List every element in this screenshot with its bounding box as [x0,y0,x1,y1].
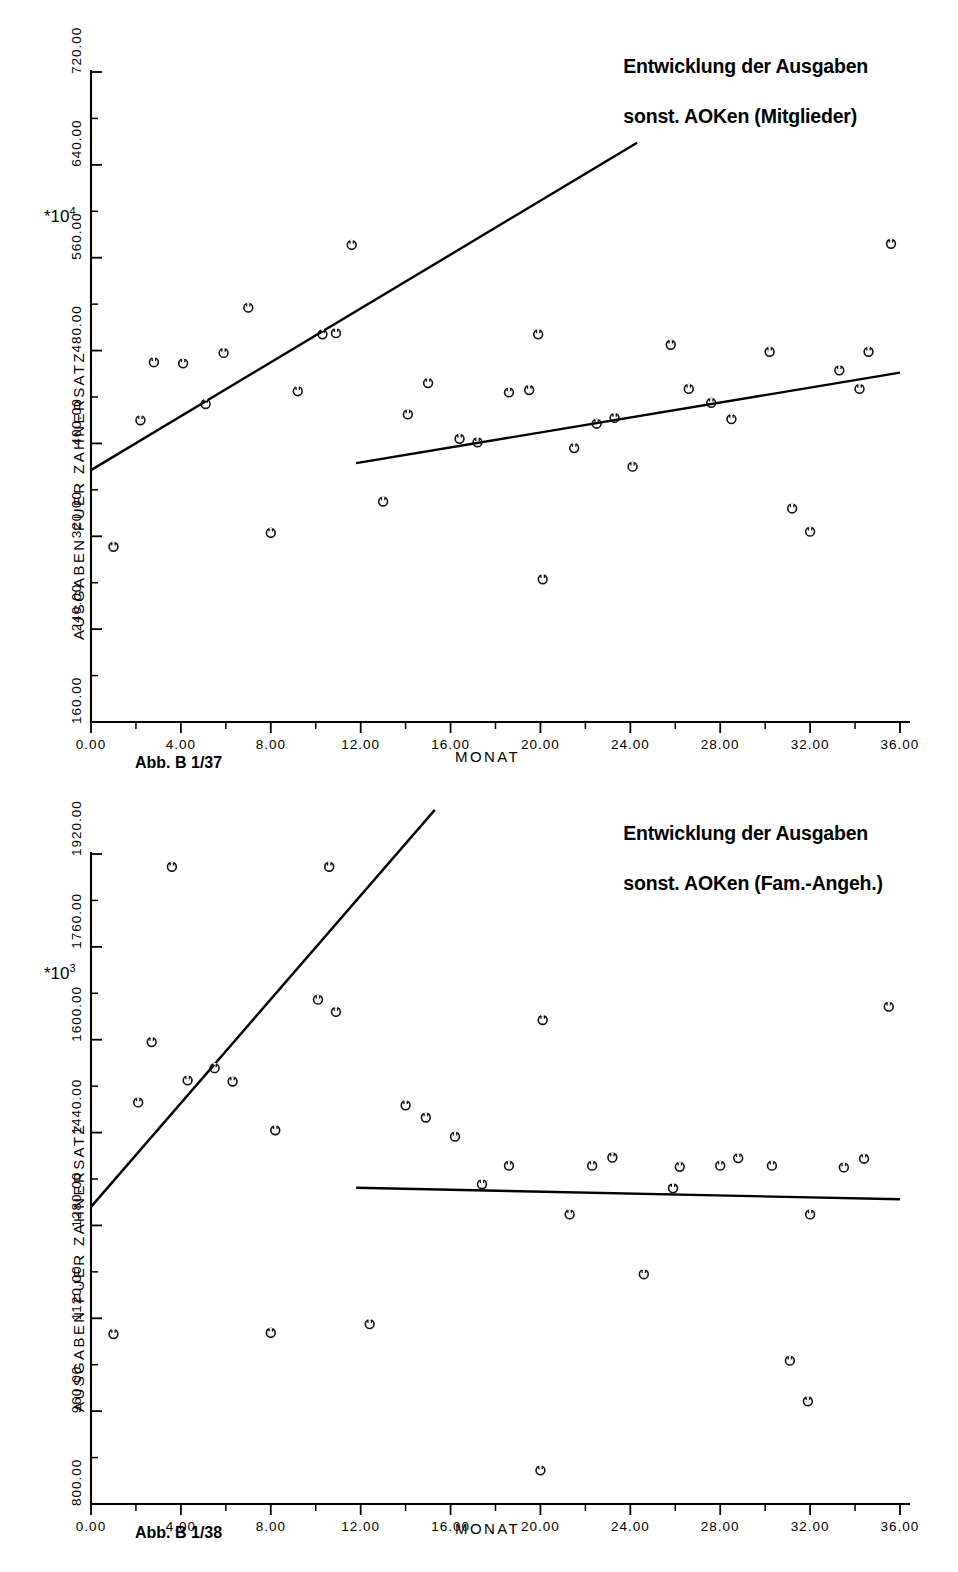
data-point [266,1328,275,1337]
x-tick-label: 28.00 [701,1519,740,1534]
x-tick-label: 8.00 [256,737,286,752]
data-point [168,862,177,871]
data-point [765,347,774,356]
data-point [134,1098,143,1107]
x-tick-label: 20.00 [521,1519,560,1534]
x-tick-label: 0.00 [76,737,106,752]
data-point [219,348,228,357]
x-tick-label: 20.00 [521,737,560,752]
y-tick-label: 1600.00 [69,986,84,1042]
x-tick-label: 32.00 [791,737,830,752]
data-point [887,239,896,248]
y-tick-label: 1760.00 [69,893,84,949]
figure2-plot-area: 800.00960.001120.001280.001440.001600.00… [0,782,958,1572]
data-point [788,504,797,513]
y-tick-label: 640.00 [69,120,84,167]
data-point [716,1161,725,1170]
data-point [839,1163,848,1172]
data-point [505,1161,514,1170]
data-point [628,462,637,471]
x-tick-label: 36.00 [881,1519,920,1534]
trend-line [91,810,435,1207]
data-point [768,1161,777,1170]
data-point [860,1154,869,1163]
data-point [183,1076,192,1085]
data-point [332,1007,341,1016]
data-point [884,1002,893,1011]
data-point [314,995,323,1004]
data-point [293,387,302,396]
figure-abb-b-1-38: Entwicklung der Ausgaben sonst. AOKen (F… [0,782,958,1572]
data-point [565,1210,574,1219]
trend-line [356,1188,900,1200]
data-point [455,434,464,443]
data-point [608,1153,617,1162]
y-tick-label: 1920.00 [69,800,84,856]
y-tick-label: 320.00 [69,491,84,538]
y-tick-label: 1280.00 [69,1172,84,1228]
data-point [325,862,334,871]
y-tick-label: 160.00 [69,677,84,724]
figure1-plot-area: 160.00240.00320.00400.00480.00560.00640.… [0,0,958,790]
data-point [401,1101,410,1110]
data-point [803,1397,812,1406]
data-point [666,340,675,349]
data-point [109,1330,118,1339]
data-point [727,415,736,424]
data-point [806,1210,815,1219]
data-point [684,384,693,393]
x-tick-label: 4.00 [166,1519,196,1534]
data-point [332,329,341,338]
data-point [639,1270,648,1279]
data-point [525,386,534,395]
data-point [806,527,815,536]
data-point [588,1161,597,1170]
x-tick-label: 16.00 [431,1519,470,1534]
data-point [534,330,543,339]
data-point [675,1162,684,1171]
x-tick-label: 28.00 [701,737,740,752]
y-tick-label: 240.00 [69,584,84,631]
data-point [785,1356,794,1365]
data-point [669,1184,678,1193]
x-tick-label: 16.00 [431,737,470,752]
y-tick-label: 720.00 [69,27,84,74]
data-point [365,1320,374,1329]
figure-abb-b-1-37: Entwicklung der Ausgaben sonst. AOKen (M… [0,0,958,790]
trend-line [91,143,637,470]
data-point [734,1154,743,1163]
data-point [424,379,433,388]
data-point [150,358,159,367]
x-tick-label: 8.00 [256,1519,286,1534]
data-point [109,542,118,551]
data-point [266,528,275,537]
data-point [421,1113,430,1122]
x-tick-label: 12.00 [341,737,380,752]
data-point [179,359,188,368]
data-point [451,1132,460,1141]
x-tick-label: 12.00 [341,1519,380,1534]
data-point [538,1016,547,1025]
data-point [347,241,356,250]
trend-line [356,373,900,464]
data-point [536,1466,545,1475]
data-point [855,384,864,393]
data-point [244,303,253,312]
data-point [835,366,844,375]
data-point [379,497,388,506]
data-point [570,444,579,453]
x-tick-label: 24.00 [611,1519,650,1534]
data-point [271,1126,280,1135]
y-tick-label: 800.00 [69,1459,84,1506]
y-tick-label: 1440.00 [69,1079,84,1135]
data-point [478,1180,487,1189]
data-point [864,347,873,356]
data-point [147,1038,156,1047]
data-point [403,410,412,419]
x-tick-label: 4.00 [166,737,196,752]
data-point [538,575,547,584]
scatter-plot-page: Entwicklung der Ausgaben sonst. AOKen (M… [0,0,958,1572]
x-tick-label: 32.00 [791,1519,830,1534]
y-tick-label: 560.00 [69,212,84,259]
y-tick-label: 1120.00 [69,1265,84,1320]
